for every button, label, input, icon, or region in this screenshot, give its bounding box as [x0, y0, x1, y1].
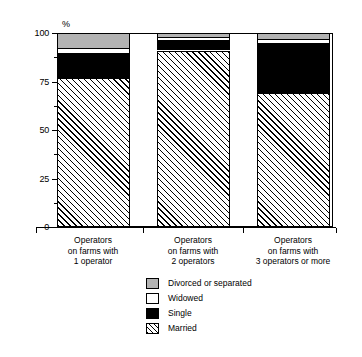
x-tick-div-2 [243, 228, 244, 233]
y-axis-unit-label: % [62, 20, 70, 29]
bar-operators-3-or-more-operators [257, 33, 330, 227]
x-tick-div-1 [143, 228, 144, 233]
legend-swatch-married-icon [146, 323, 159, 334]
legend-label-widowed: Widowed [168, 293, 203, 304]
category-label-1: Operators on farms with 1 operator [38, 235, 148, 267]
category-label-2-line-3: 2 operators [138, 256, 248, 267]
category-label-2-line-1: Operators [138, 235, 248, 246]
bar-operators-1-operator [57, 33, 130, 227]
category-label-1-line-1: Operators [38, 235, 148, 246]
category-label-2-line-2: on farms with [138, 246, 248, 257]
category-label-3-line-2: on farms with [238, 246, 348, 257]
y-label-25: 25 [18, 175, 49, 184]
y-label-75: 75 [18, 78, 49, 87]
legend-label-married: Married [168, 323, 197, 334]
segment-single [157, 40, 230, 51]
category-label-2: Operators on farms with 2 operators [138, 235, 248, 267]
category-label-3: Operators on farms with 3 operators or m… [238, 235, 348, 267]
bar-operators-2-operators [157, 33, 230, 227]
segment-divorced-or-separated [57, 33, 130, 49]
category-label-3-line-3: 3 operators or more [238, 256, 348, 267]
category-label-1-line-3: 1 operator [38, 256, 148, 267]
x-axis-line [36, 227, 336, 228]
segment-married [257, 93, 330, 227]
category-label-3-line-1: Operators [238, 235, 348, 246]
category-label-1-line-2: on farms with [38, 246, 148, 257]
segment-married [57, 78, 130, 227]
segment-single [57, 53, 130, 78]
legend-label-divorced-or-separated: Divorced or separated [168, 278, 252, 289]
stacked-bar-chart: % 100 75 50 25 0 Operat [0, 0, 362, 357]
y-label-100: 100 [18, 29, 49, 38]
y-label-50: 50 [18, 126, 49, 135]
segment-married [157, 51, 230, 228]
segment-single [257, 43, 330, 93]
legend-swatch-single-icon [146, 308, 159, 319]
segment-divorced-or-separated [257, 33, 330, 40]
legend-label-single: Single [168, 308, 192, 319]
legend-swatch-divorced-icon [146, 278, 159, 289]
x-tick-left [36, 228, 37, 233]
legend-swatch-widowed-icon [146, 293, 159, 304]
x-tick-right [336, 228, 337, 233]
